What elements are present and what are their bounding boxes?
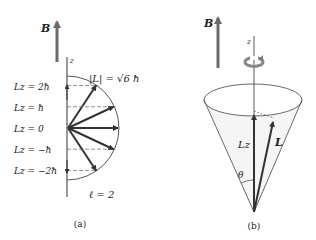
z-axis-label-a: z — [69, 57, 74, 65]
theta-label: θ — [238, 170, 244, 180]
lz-level-label: Lz = −ħ — [13, 145, 51, 155]
lz-label: Lz — [237, 139, 251, 150]
lz-level-label: Lz = 0 — [13, 124, 44, 134]
angular-momentum-diagram: B z Lz = 2ħLz = ħLz = 0Lz = −ħLz = −2ħ |… — [0, 0, 316, 240]
lz-level-label: Lz = −2ħ — [13, 166, 57, 176]
lz-level-label: Lz = 2ħ — [13, 82, 50, 92]
z-axis-label-b: z — [246, 38, 251, 46]
panel-b: B z θ Lz L (b) — [203, 17, 302, 231]
magnitude-label: |L| = √6 ħ — [89, 73, 139, 85]
cone-rim — [204, 84, 302, 116]
caption-a: (a) — [74, 219, 86, 229]
lz-level-label: Lz = ħ — [13, 103, 44, 113]
lz-label-text: Lz — [237, 139, 251, 150]
caption-b: (b) — [248, 221, 261, 231]
field-label-b: B — [203, 17, 213, 30]
panel-a: B z Lz = 2ħLz = ħLz = 0Lz = −ħLz = −2ħ |… — [13, 22, 139, 229]
l-label: L — [274, 136, 283, 149]
l-quantum-label: ℓ = 2 — [89, 189, 114, 200]
field-label-a: B — [40, 22, 50, 35]
